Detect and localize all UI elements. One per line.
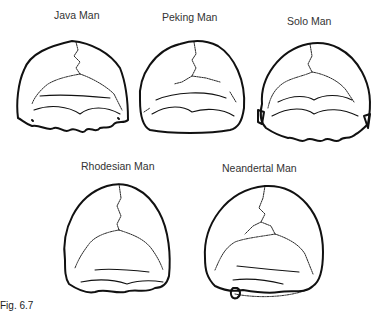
figure-caption: Fig. 6.7: [0, 300, 33, 311]
label-java-man: Java Man: [54, 9, 100, 21]
label-neandertal-man: Neandertal Man: [222, 162, 297, 174]
neandertal-man-skull-drawing: [195, 178, 335, 306]
rhodesian-man-skull-drawing: [55, 176, 175, 296]
peking-man-skull-drawing: [130, 30, 250, 140]
label-peking-man: Peking Man: [162, 11, 217, 23]
label-solo-man: Solo Man: [287, 15, 331, 27]
label-rhodesian-man: Rhodesian Man: [81, 160, 155, 172]
solo-man-skull-drawing: [250, 32, 378, 150]
java-man-skull-drawing: [10, 28, 130, 140]
